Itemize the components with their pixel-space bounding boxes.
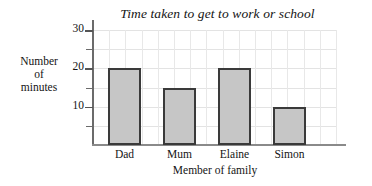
bar <box>218 68 251 145</box>
x-axis-category-label: Mum <box>150 148 210 160</box>
y-axis-tick <box>86 49 93 50</box>
gridline-vertical <box>255 30 256 145</box>
gridline-vertical <box>336 30 337 145</box>
y-axis-tick-label: 20 <box>60 60 84 72</box>
y-axis-tick <box>86 88 93 89</box>
y-axis-tick <box>85 30 93 32</box>
bar <box>273 107 306 145</box>
bar-chart: Time taken to get to work or school Numb… <box>0 0 372 186</box>
gridline-horizontal <box>93 30 337 31</box>
x-axis-category-label: Simon <box>260 148 320 160</box>
x-axis-category-label: Dad <box>95 148 155 160</box>
y-axis-tick-label: 30 <box>60 22 84 34</box>
y-axis-line <box>92 20 94 146</box>
gridline-vertical <box>320 30 321 145</box>
bar <box>108 68 141 145</box>
gridline-vertical <box>158 30 159 145</box>
x-axis-label: Member of family <box>93 164 337 176</box>
chart-title: Time taken to get to work or school <box>100 6 335 22</box>
y-axis-tick <box>85 107 93 109</box>
y-axis-tick-label: 10 <box>60 99 84 111</box>
y-axis-tick <box>85 68 93 70</box>
gridline-vertical <box>206 30 207 145</box>
gridline-vertical <box>142 30 143 145</box>
gridline-vertical <box>271 30 272 145</box>
gridline-horizontal <box>93 49 337 50</box>
bar <box>163 88 196 146</box>
x-axis-category-label: Elaine <box>205 148 265 160</box>
y-axis-tick-labels: 102030 <box>58 0 84 186</box>
y-axis-tick <box>86 126 93 127</box>
